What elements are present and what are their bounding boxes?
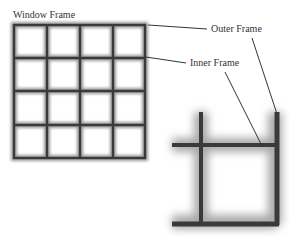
window-frame-diagram <box>0 0 289 237</box>
outer-frame-inset-pointer <box>252 38 277 114</box>
outer-frame-pointer <box>148 25 207 29</box>
pointer-lines <box>146 25 277 146</box>
inner-frame-pointer <box>146 57 186 63</box>
zoom-inset <box>172 112 279 225</box>
window-grid <box>13 24 146 159</box>
inner-frame-inset-pointer <box>225 72 262 146</box>
